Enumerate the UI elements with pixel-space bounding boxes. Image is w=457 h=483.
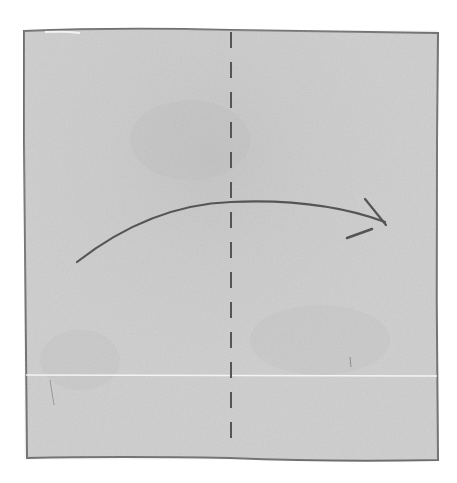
origami-diagram xyxy=(0,0,457,483)
